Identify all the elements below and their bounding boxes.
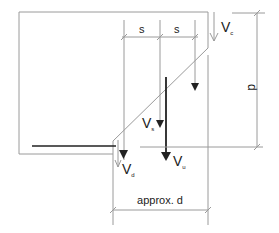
arrowhead-icon	[191, 83, 199, 91]
depth-label: d	[245, 84, 259, 91]
vd-label: Vd	[122, 161, 135, 178]
vc-label: Vc	[221, 19, 233, 36]
arrowhead-icon	[156, 120, 164, 128]
vc-arrow	[210, 12, 218, 41]
arrowhead-icon	[161, 152, 171, 161]
spacing-label-2: s	[174, 23, 180, 35]
approx-depth-label: approx. d	[137, 194, 183, 206]
vs-label: Vs	[142, 115, 154, 132]
spacing-label-1: s	[139, 23, 145, 35]
stirrup-force-arrows	[156, 83, 199, 128]
depth-dimension	[140, 10, 265, 150]
shear-diagram: s s Vc Vs Vu Vd d	[0, 0, 279, 233]
approx-depth-dimension	[110, 207, 211, 213]
vu-arrow	[161, 77, 171, 161]
vu-label: Vu	[173, 153, 186, 170]
spacing-dimension	[121, 20, 198, 160]
arrowhead-icon	[119, 150, 128, 159]
